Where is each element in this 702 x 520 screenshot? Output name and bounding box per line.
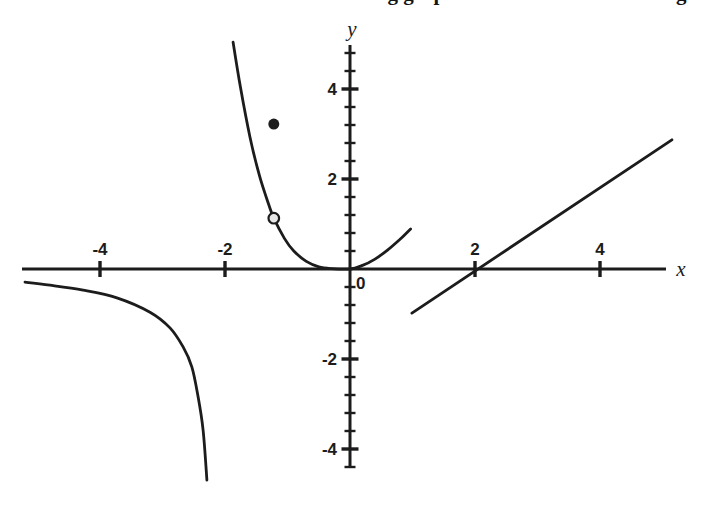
origin-label: 0: [356, 274, 365, 293]
y-axis-tick-label: 2: [328, 170, 337, 189]
figure-canvas: ing graph g -4-22442-2-40xy: [0, 0, 702, 520]
parabola-branch-curve: [233, 42, 411, 269]
cropped-title-fragment-2: g: [676, 0, 692, 5]
x-axis-tick-label: 2: [470, 240, 479, 259]
graph-canvas: -4-22442-2-40xy: [0, 0, 702, 520]
cropped-title-text-2: g: [676, 0, 692, 5]
x-axis-tick-label: 4: [595, 240, 605, 259]
cropped-title-fragment: ing graph: [370, 0, 462, 9]
x-axis-tick-label: -2: [217, 240, 232, 259]
hyperbola-branch-curve: [25, 282, 207, 480]
y-axis-label: y: [345, 17, 357, 41]
open-point-marker: [269, 213, 280, 224]
y-axis-tick-label: -4: [322, 440, 338, 459]
y-axis-tick-label: -2: [322, 350, 337, 369]
y-axis-tick-label: 4: [328, 80, 338, 99]
cropped-title-text: ing graph: [370, 0, 462, 6]
x-axis-tick-label: -4: [92, 240, 108, 259]
linear-branch-curve: [412, 140, 672, 313]
filled-point-marker: [268, 119, 279, 130]
x-axis-label: x: [675, 257, 686, 281]
